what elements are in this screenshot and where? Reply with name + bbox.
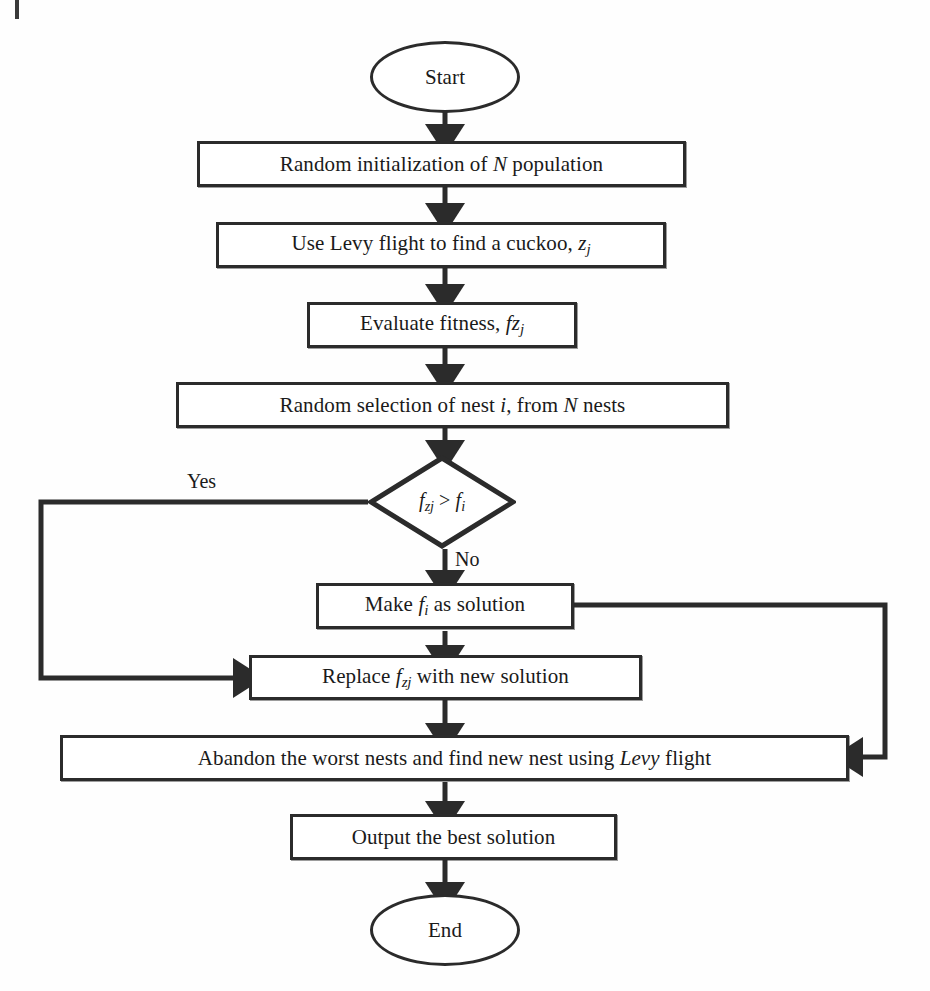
node-make-solution-label: Make fi as solution [365, 592, 525, 620]
node-abandon-worst-nests-label: Abandon the worst nests and find new nes… [198, 746, 711, 770]
node-abandon-worst-nests[interactable]: Abandon the worst nests and find new nes… [60, 735, 849, 781]
node-evaluate-fitness[interactable]: Evaluate fitness, fzj [307, 302, 577, 348]
node-end[interactable]: End [370, 894, 520, 966]
node-decision-fitness-compare[interactable]: fzj > fi [368, 455, 516, 549]
flowchart-canvas: Start Random initialization of N populat… [0, 0, 930, 991]
node-start-label: Start [425, 65, 465, 89]
node-output-best-solution-label: Output the best solution [352, 825, 556, 849]
node-random-selection-nest[interactable]: Random selection of nest i, from N nests [176, 382, 729, 428]
node-random-selection-nest-label: Random selection of nest i, from N nests [280, 393, 626, 417]
node-levy-flight-cuckoo[interactable]: Use Levy flight to find a cuckoo, zj [216, 222, 666, 268]
page-caption-remnant [46, 968, 646, 982]
node-random-initialization-label: Random initialization of N population [280, 152, 603, 176]
node-levy-flight-cuckoo-label: Use Levy flight to find a cuckoo, zj [291, 231, 590, 259]
page-margin-mark [15, 0, 19, 19]
node-evaluate-fitness-label: Evaluate fitness, fzj [360, 311, 524, 339]
node-replace-solution-label: Replace fzj with new solution [322, 664, 569, 692]
node-random-initialization[interactable]: Random initialization of N population [197, 141, 686, 187]
node-end-label: End [428, 918, 462, 942]
edge-label-no: No [455, 548, 479, 571]
edge-label-yes: Yes [187, 470, 216, 493]
node-replace-solution[interactable]: Replace fzj with new solution [249, 655, 642, 700]
node-output-best-solution[interactable]: Output the best solution [290, 814, 617, 860]
node-decision-fitness-compare-label: fzj > fi [419, 489, 465, 515]
node-start[interactable]: Start [370, 41, 520, 113]
node-make-solution[interactable]: Make fi as solution [316, 583, 574, 629]
